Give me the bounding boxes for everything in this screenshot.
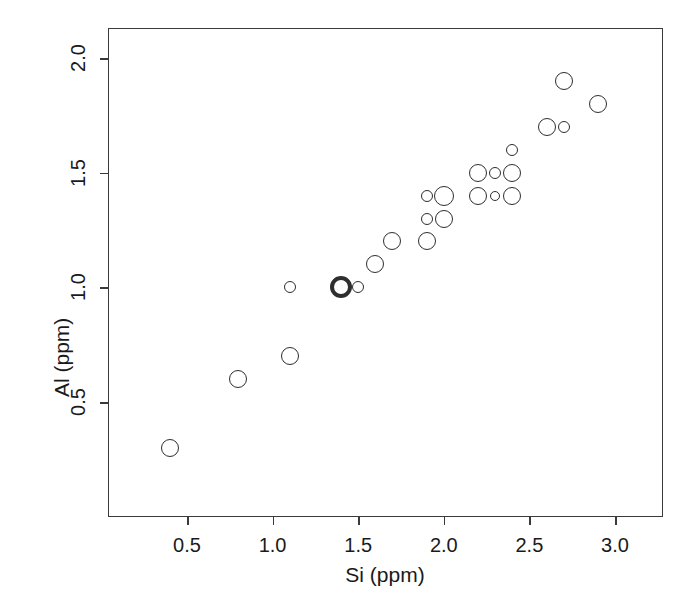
y-axis-title: Al (ppm) [50, 318, 74, 397]
x-tick-mark [529, 517, 531, 525]
x-tick-mark [273, 517, 275, 525]
x-axis-title: Si (ppm) [345, 563, 424, 587]
plot-area-border [108, 28, 663, 517]
x-tick-mark [444, 517, 446, 525]
y-tick-mark [100, 173, 108, 175]
x-tick-label: 0.5 [173, 534, 201, 557]
x-tick-label: 2.5 [515, 534, 543, 557]
y-tick-label: 1.5 [67, 159, 90, 187]
x-tick-label: 1.5 [344, 534, 372, 557]
x-tick-mark [187, 517, 189, 525]
x-tick-mark [615, 517, 617, 525]
y-tick-mark [100, 287, 108, 289]
y-tick-mark [100, 402, 108, 404]
x-tick-mark [358, 517, 360, 525]
y-tick-mark [100, 58, 108, 60]
y-tick-label: 1.0 [67, 273, 90, 301]
y-tick-label: 2.0 [67, 44, 90, 72]
x-tick-label: 1.0 [259, 534, 287, 557]
scatter-plot-figure: 0.51.01.52.02.53.0 0.51.01.52.0 Si (ppm)… [0, 0, 695, 612]
x-tick-label: 3.0 [601, 534, 629, 557]
x-tick-label: 2.0 [430, 534, 458, 557]
